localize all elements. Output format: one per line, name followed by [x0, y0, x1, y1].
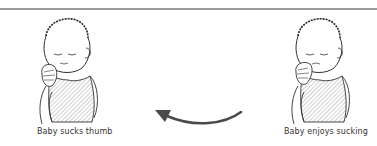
curved-arrow-left-icon: [145, 100, 250, 132]
caption-baby-sucks-thumb: Baby sucks thumb: [37, 127, 112, 136]
top-rule: [0, 8, 377, 10]
caption-baby-enjoys-sucking: Baby enjoys sucking: [284, 127, 368, 136]
baby-sucks-thumb-illustration: [28, 14, 108, 126]
baby-enjoys-sucking-illustration: [280, 14, 360, 126]
